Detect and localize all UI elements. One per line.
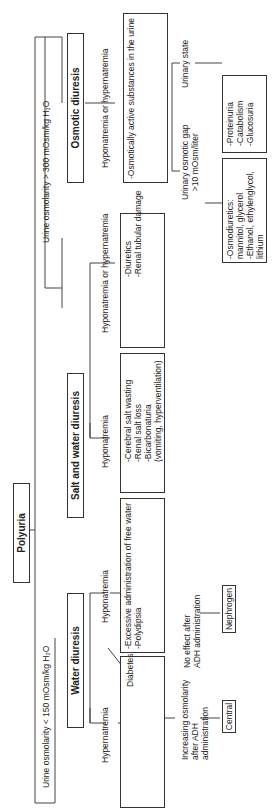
osmodiuretics-text: -Osmodiuretics: mannitol, glycerol -Etha… [223, 159, 267, 262]
diuretics-box: -Diuretics -Renal tubular damage [120, 213, 165, 348]
adh-response-label: Increasing osmolarity after ADH administ… [180, 680, 210, 760]
osmotic-substances-box: -Osmotically active substances in the ur… [123, 13, 168, 183]
high-osmolarity-label: Urine osmolarity > 300 mOsm/kg H₂O [41, 101, 51, 243]
salt-water-diuresis-title: Salt and water diuresis [70, 391, 81, 500]
diabetes-insipidus-box: Diabetes insipidus [120, 656, 165, 808]
water-diuresis-node: Water diuresis [67, 593, 84, 728]
hypernatremia-label: Hypernatremia [100, 707, 110, 763]
osmotic-diuresis-node: Osmotic diuresis [67, 33, 84, 183]
nephrogen-label: Nephrogen [224, 588, 234, 630]
polyuria-flowchart: Polyuria Urine osmolarity < 150 mOsm/kg … [0, 0, 280, 808]
osmotic-diuresis-title: Osmotic diuresis [70, 67, 81, 148]
urinary-state-box: -Proteinuria -Catabolism -Glucosuria [222, 75, 267, 153]
osmotic-gap-label: Urinary osmotic gap >10 mOsm/liter [180, 124, 200, 200]
adh-no-effect-label: No effect after ADH administration [182, 595, 202, 668]
urinary-state-text: -Proteinuria -Catabolism -Glucosuria [223, 76, 257, 152]
osmodiuretics-box: -Osmodiuretics: mannitol, glycerol -Etha… [222, 158, 267, 263]
root-node-polyuria: Polyuria [13, 483, 30, 583]
nephrogen-box: Nephrogen [222, 585, 236, 633]
central-label: Central [224, 703, 234, 730]
root-label: Polyuria [16, 513, 27, 552]
diuretics-text: -Diuretics -Renal tubular damage [121, 214, 145, 347]
hypo-or-hyper-label-osmotic: Hyponatremia or hypernatremia [100, 48, 110, 168]
free-water-box: -Excessive administration of free water … [120, 498, 165, 653]
low-osmolarity-label: Urine osmolarity < 150 mOsm/kg H₂O [41, 646, 51, 788]
urinary-state-label: Urinary state [180, 40, 190, 88]
salt-wasting-text: -Cerebral salt wasting -Renal salt loss … [121, 354, 165, 492]
hypo-or-hyper-label-salt: Hyponatremia or hypernatremia [100, 213, 110, 333]
hyponatremia-label-water: Hyponatremia [100, 570, 110, 623]
diabetes-insipidus-text: Diabetes insipidus [121, 657, 137, 807]
osmotic-substances-text: -Osmotically active substances in the ur… [124, 14, 138, 182]
hyponatremia-label-salt: Hyponatremia [100, 415, 110, 468]
central-box: Central [222, 700, 236, 733]
salt-wasting-box: -Cerebral salt wasting -Renal salt loss … [120, 353, 165, 493]
free-water-text: -Excessive administration of free water … [121, 499, 145, 652]
salt-water-diuresis-node: Salt and water diuresis [67, 373, 84, 518]
water-diuresis-title: Water diuresis [70, 626, 81, 695]
